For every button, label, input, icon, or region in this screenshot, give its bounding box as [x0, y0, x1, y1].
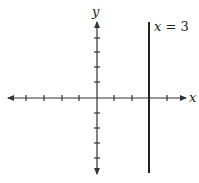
y-axis-label: y	[91, 4, 100, 19]
x-axis-label: x	[189, 90, 197, 105]
line-label-eq: = 3	[161, 19, 188, 34]
line-label: x = 3	[154, 19, 189, 34]
coordinate-plane: x y x = 3	[0, 0, 199, 183]
